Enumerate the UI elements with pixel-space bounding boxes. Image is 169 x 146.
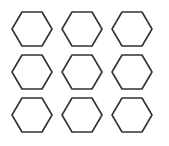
- hexagon-icon: [112, 98, 152, 132]
- hexagon-icon: [12, 12, 52, 46]
- hexagon-icon: [12, 98, 52, 132]
- hexagon-icon: [12, 55, 52, 89]
- hexagon-icon: [62, 98, 102, 132]
- hexagon-icon: [112, 12, 152, 46]
- hexagon-icon: [62, 12, 102, 46]
- hexagon-icon: [62, 55, 102, 89]
- hexagon-icon: [112, 55, 152, 89]
- hexagon-grid: [0, 0, 169, 146]
